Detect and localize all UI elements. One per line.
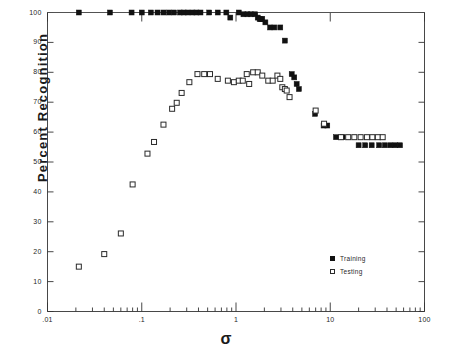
data-point xyxy=(346,135,351,140)
data-point xyxy=(270,78,275,83)
y-tick-label: 90 xyxy=(16,38,42,45)
data-point xyxy=(187,80,192,85)
data-point xyxy=(130,182,135,187)
data-point xyxy=(284,88,289,93)
data-point xyxy=(388,143,393,148)
data-point xyxy=(76,10,81,15)
y-tick-label: 50 xyxy=(16,158,42,165)
data-point xyxy=(380,135,385,140)
x-tick-label: 10 xyxy=(315,316,345,323)
legend-item-training: Training xyxy=(330,252,366,265)
data-point xyxy=(296,87,301,92)
data-point xyxy=(102,252,107,257)
data-point xyxy=(231,80,236,85)
data-point xyxy=(215,10,220,15)
data-point xyxy=(139,10,144,15)
data-point xyxy=(398,143,403,148)
filled-square-icon xyxy=(330,256,335,261)
data-point xyxy=(333,135,338,140)
x-tick-label: 1 xyxy=(221,316,251,323)
data-point xyxy=(370,135,375,140)
x-tick-label: .1 xyxy=(127,316,157,323)
y-tick-label: 20 xyxy=(16,248,42,255)
y-tick-label: 100 xyxy=(16,9,42,16)
data-point xyxy=(107,10,112,15)
data-point xyxy=(247,81,252,86)
y-tick-label: 70 xyxy=(16,98,42,105)
data-point xyxy=(161,122,166,127)
plot-canvas xyxy=(0,0,452,354)
data-point xyxy=(313,108,318,113)
data-point xyxy=(282,38,287,43)
data-point xyxy=(148,10,153,15)
data-point xyxy=(272,25,277,30)
data-point xyxy=(263,20,268,25)
data-point xyxy=(240,78,245,83)
data-point xyxy=(287,95,292,100)
data-point xyxy=(358,135,363,140)
data-point xyxy=(118,231,123,236)
y-tick-label: 40 xyxy=(16,188,42,195)
data-point xyxy=(236,10,241,15)
data-point xyxy=(167,10,172,15)
data-point xyxy=(278,25,283,30)
y-tick-label: 0 xyxy=(16,308,42,315)
data-point xyxy=(179,90,184,95)
data-point xyxy=(208,72,213,77)
x-tick-label: .01 xyxy=(33,316,63,323)
data-point xyxy=(174,100,179,105)
data-point xyxy=(244,72,249,77)
data-point xyxy=(76,264,81,269)
legend-label-training: Training xyxy=(340,255,366,262)
data-point xyxy=(155,10,160,15)
legend-label-testing: Testing xyxy=(340,268,363,275)
data-point xyxy=(294,81,299,86)
x-axis-title: σ xyxy=(0,330,452,348)
data-point xyxy=(145,151,150,156)
y-tick-label: 10 xyxy=(16,278,42,285)
series-testing xyxy=(76,70,385,269)
plot-frame xyxy=(48,13,425,312)
data-point xyxy=(198,10,203,15)
data-point xyxy=(292,75,297,80)
data-point xyxy=(224,10,229,15)
data-point xyxy=(363,143,368,148)
data-point xyxy=(369,143,374,148)
data-point xyxy=(352,135,357,140)
data-point xyxy=(195,72,200,77)
data-point xyxy=(377,143,382,148)
data-point xyxy=(152,139,157,144)
data-point xyxy=(215,76,220,81)
legend-item-testing: Testing xyxy=(330,265,366,278)
data-point xyxy=(170,106,175,111)
y-tick-label: 30 xyxy=(16,218,42,225)
data-point xyxy=(260,73,265,78)
data-point xyxy=(322,121,327,126)
data-point xyxy=(202,72,207,77)
legend: Training Testing xyxy=(330,252,366,278)
data-point xyxy=(172,10,177,15)
data-point xyxy=(338,135,343,140)
data-point xyxy=(364,135,369,140)
x-tick-label: 100 xyxy=(410,316,440,323)
axis-ticks xyxy=(48,13,425,312)
data-point xyxy=(129,10,134,15)
data-point xyxy=(375,135,380,140)
data-point xyxy=(207,10,212,15)
data-point xyxy=(278,76,283,81)
data-point xyxy=(382,143,387,148)
data-point xyxy=(225,78,230,83)
data-point xyxy=(356,143,361,148)
y-tick-label: 80 xyxy=(16,68,42,75)
figure: Percent Recognition σ 010203040506070809… xyxy=(0,0,452,354)
y-tick-label: 60 xyxy=(16,128,42,135)
data-point xyxy=(393,143,398,148)
data-point xyxy=(228,15,233,20)
open-square-icon xyxy=(330,269,335,274)
data-point xyxy=(161,10,166,15)
